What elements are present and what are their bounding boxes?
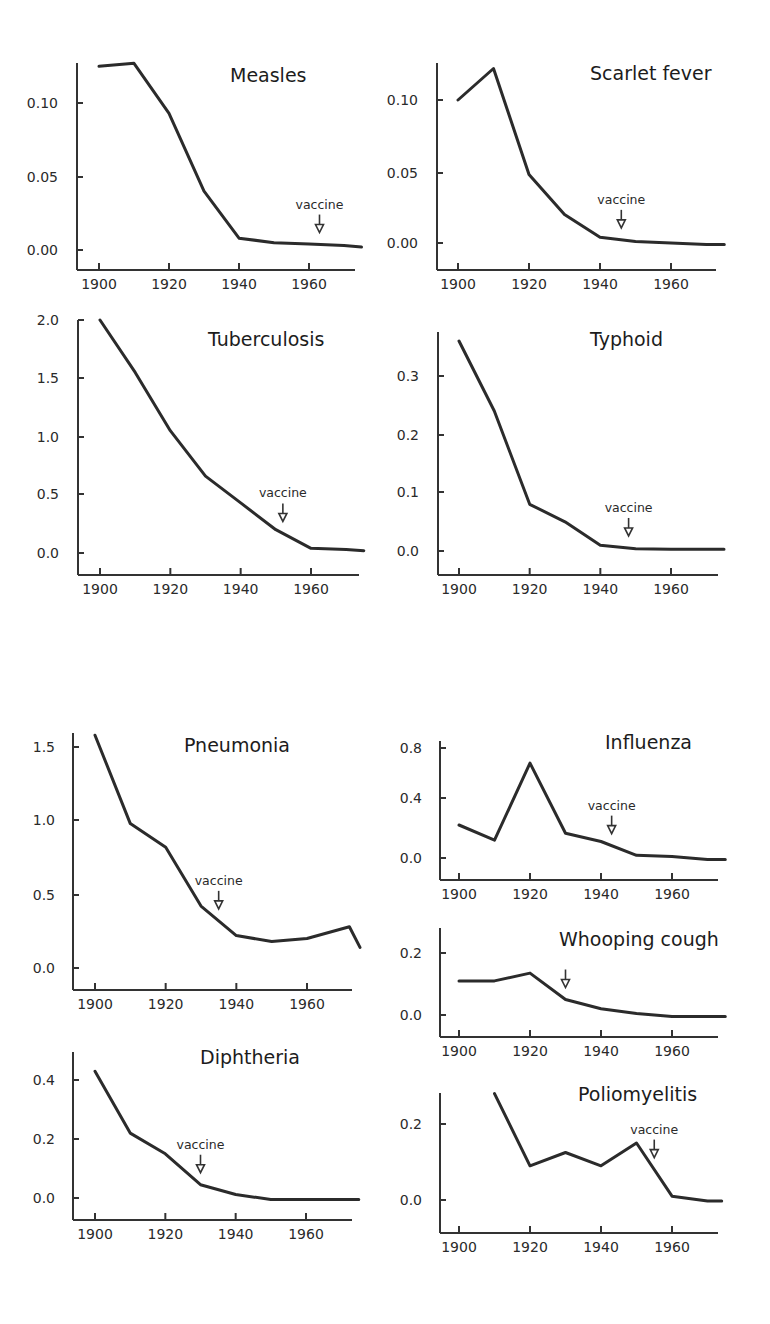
x-tick-label: 1960	[288, 1226, 324, 1242]
chart-panel-influenza: 0.00.40.81900192019401960Influenzavaccin…	[400, 731, 726, 902]
y-tick-label: 1.0	[37, 429, 59, 445]
data-line-poliomyelitis	[495, 1094, 722, 1202]
data-line-pneumonia	[95, 735, 360, 947]
vaccine-label: vaccine	[605, 500, 653, 515]
x-tick-label: 1960	[653, 276, 689, 292]
data-line-scarlet-fever	[458, 69, 724, 245]
vaccine-label: vaccine	[259, 485, 307, 500]
x-tick-label: 1900	[441, 1239, 477, 1255]
x-tick-label: 1900	[440, 276, 476, 292]
x-tick-label: 1940	[218, 1226, 254, 1242]
data-line-typhoid	[459, 341, 724, 549]
x-tick-label: 1900	[77, 996, 113, 1012]
y-tick-label: 0.0	[397, 543, 419, 559]
chart-panel-diphtheria: 0.00.20.41900192019401960Diphtheriavacci…	[33, 1046, 359, 1242]
x-tick-label: 1940	[223, 581, 259, 597]
chart-title: Tuberculosis	[207, 328, 324, 350]
vaccine-arrow-icon	[197, 1155, 205, 1173]
chart-panel-typhoid: 0.00.10.20.31900192019401960Typhoidvacci…	[397, 328, 724, 597]
chart-panel-pneumonia: 0.00.51.01.51900192019401960Pneumoniavac…	[33, 733, 360, 1012]
y-tick-label: 0.0	[400, 850, 422, 866]
y-tick-label: 0.2	[400, 945, 422, 961]
x-tick-label: 1920	[512, 1239, 548, 1255]
y-tick-label: 0.0	[400, 1192, 422, 1208]
x-tick-label: 1960	[654, 1043, 690, 1059]
y-tick-label: 0.10	[27, 95, 58, 111]
x-tick-label: 1960	[654, 1239, 690, 1255]
x-tick-label: 1920	[148, 1226, 184, 1242]
vaccine-label: vaccine	[597, 192, 645, 207]
y-tick-label: 0.5	[33, 887, 55, 903]
chart-title: Pneumonia	[184, 734, 290, 756]
x-tick-label: 1900	[441, 1043, 477, 1059]
y-tick-label: 2.0	[37, 312, 59, 328]
x-tick-label: 1940	[583, 886, 619, 902]
y-tick-label: 0.4	[33, 1072, 55, 1088]
vaccine-arrow-icon	[279, 503, 287, 521]
x-tick-label: 1920	[512, 581, 548, 597]
x-tick-label: 1900	[81, 276, 117, 292]
data-line-measles	[99, 63, 362, 247]
y-tick-label: 0.8	[400, 740, 422, 756]
y-tick-label: 1.5	[33, 739, 55, 755]
chart-panel-measles: 0.000.050.101900192019401960Measlesvacci…	[27, 63, 362, 292]
x-tick-label: 1960	[289, 996, 325, 1012]
chart-title: Typhoid	[589, 328, 663, 350]
vaccine-label: vaccine	[177, 1137, 225, 1152]
y-tick-label: 1.5	[37, 370, 59, 386]
vaccine-arrow-icon	[608, 816, 616, 834]
y-tick-label: 0.05	[27, 169, 58, 185]
vaccine-arrow-icon	[617, 210, 625, 228]
x-tick-label: 1960	[653, 581, 689, 597]
x-tick-label: 1940	[219, 996, 255, 1012]
y-tick-label: 0.00	[387, 235, 418, 251]
y-tick-label: 0.3	[397, 368, 419, 384]
vaccine-arrow-icon	[650, 1140, 658, 1158]
vaccine-label: vaccine	[195, 873, 243, 888]
vaccine-label: vaccine	[296, 197, 344, 212]
y-tick-label: 0.2	[397, 427, 419, 443]
y-tick-label: 0.5	[37, 486, 59, 502]
x-tick-label: 1960	[291, 276, 327, 292]
x-tick-label: 1940	[583, 581, 619, 597]
y-tick-label: 0.05	[387, 165, 418, 181]
x-tick-label: 1940	[582, 276, 618, 292]
data-line-tuberculosis	[100, 320, 364, 551]
chart-title: Poliomyelitis	[578, 1083, 697, 1105]
y-tick-label: 0.1	[397, 484, 419, 500]
x-tick-label: 1920	[512, 1043, 548, 1059]
y-tick-label: 0.2	[400, 1116, 422, 1132]
y-tick-label: 0.0	[37, 545, 59, 561]
chart-panel-poliomyelitis: 0.00.21900192019401960Poliomyelitisvacci…	[400, 1083, 722, 1255]
y-tick-label: 1.0	[33, 812, 55, 828]
x-tick-label: 1920	[153, 581, 189, 597]
x-tick-label: 1920	[512, 886, 548, 902]
x-tick-label: 1900	[77, 1226, 113, 1242]
figure-canvas: 0.000.050.101900192019401960Measlesvacci…	[0, 0, 770, 1324]
vaccine-arrow-icon	[625, 518, 633, 536]
vaccine-arrow-icon	[215, 891, 223, 909]
chart-panel-tuberculosis: 0.00.51.01.52.01900192019401960Tuberculo…	[37, 312, 364, 597]
x-tick-label: 1920	[148, 996, 184, 1012]
chart-title: Diphtheria	[200, 1046, 300, 1068]
vaccine-arrow-icon	[316, 215, 324, 233]
vaccine-label: vaccine	[588, 798, 636, 813]
y-tick-label: 0.2	[33, 1131, 55, 1147]
y-tick-label: 0.4	[400, 790, 422, 806]
x-tick-label: 1940	[221, 276, 257, 292]
x-tick-label: 1940	[583, 1239, 619, 1255]
y-tick-label: 0.0	[400, 1007, 422, 1023]
x-tick-label: 1940	[583, 1043, 619, 1059]
y-tick-label: 0.0	[33, 1190, 55, 1206]
x-tick-label: 1920	[511, 276, 547, 292]
chart-title: Influenza	[605, 731, 692, 753]
chart-panel-whooping-cough: 0.00.21900192019401960Whooping cough	[400, 928, 726, 1059]
x-tick-label: 1900	[82, 581, 118, 597]
data-line-diphtheria	[95, 1071, 359, 1199]
x-tick-label: 1900	[441, 886, 477, 902]
chart-title: Scarlet fever	[590, 62, 712, 84]
data-line-whooping-cough	[459, 973, 725, 1016]
chart-title: Measles	[230, 64, 307, 86]
y-tick-label: 0.00	[27, 242, 58, 258]
x-tick-label: 1960	[293, 581, 329, 597]
